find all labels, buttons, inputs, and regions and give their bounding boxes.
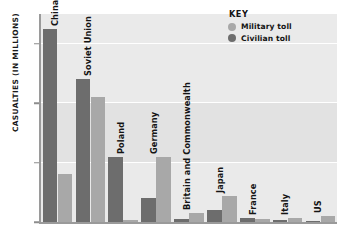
category-label: Britain and Commonwealth [182, 82, 192, 210]
legend-entry: Civilian toll [228, 34, 292, 43]
bar-group: France [240, 14, 270, 222]
chart-legend: KEY Military tollCivilian toll [228, 9, 292, 43]
legend-entry: Military toll [228, 22, 292, 31]
category-label: Italy [280, 194, 290, 215]
category-label: Japan [215, 167, 225, 193]
legend-entries: Military tollCivilian toll [228, 22, 292, 43]
bar-civilian [108, 157, 123, 222]
y-tick-mark [34, 102, 39, 104]
legend-label: Military toll [241, 22, 292, 31]
category-label: US [313, 200, 323, 213]
bar-military [222, 196, 237, 222]
bar-civilian [306, 221, 321, 223]
bar-civilian [141, 198, 156, 222]
bar-civilian [273, 220, 288, 222]
bar-group: Italy [273, 14, 303, 222]
legend-label: Civilian toll [241, 34, 290, 43]
casualties-bar-chart: CASUALTIES (IN MILLIONS) ChinaSoviet Uni… [0, 0, 341, 240]
bar-military [189, 213, 204, 223]
bar-military [58, 174, 73, 222]
bar-civilian [174, 219, 189, 222]
bar-civilian [240, 218, 255, 222]
bar-group: Britain and Commonwealth [174, 14, 204, 222]
bar-military [255, 219, 270, 222]
y-tick-mark [34, 162, 39, 164]
y-tick-mark [34, 221, 39, 223]
bar-group: Germany [141, 14, 171, 222]
bar-civilian [76, 79, 91, 222]
bar-military [288, 218, 303, 222]
category-label: France [248, 183, 258, 214]
bar-military [123, 220, 138, 222]
bar-group: US [306, 14, 336, 222]
bar-group: China [43, 14, 73, 222]
y-tick-mark [34, 43, 39, 45]
bar-group: Japan [207, 14, 237, 222]
bar-military [91, 97, 106, 222]
legend-title: KEY [228, 9, 292, 19]
category-label: Poland [116, 121, 126, 153]
bar-civilian [43, 29, 58, 222]
category-label: Germany [149, 111, 159, 153]
legend-swatch-icon [228, 23, 236, 31]
category-label: China [50, 0, 60, 26]
category-label: Soviet Union [83, 16, 93, 76]
plot-area: ChinaSoviet UnionPolandGermanyBritain an… [39, 14, 337, 224]
bar-military [156, 157, 171, 222]
bar-civilian [207, 210, 222, 222]
legend-swatch-icon [228, 34, 236, 42]
y-axis-title: CASUALTIES (IN MILLIONS) [11, 0, 20, 148]
bar-group: Poland [108, 14, 138, 222]
bar-military [321, 216, 336, 222]
bar-group: Soviet Union [76, 14, 106, 222]
